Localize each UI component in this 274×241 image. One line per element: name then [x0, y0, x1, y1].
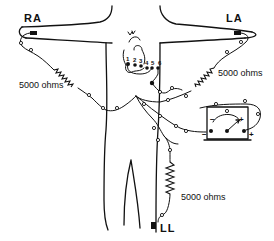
chest-label-5: 5 — [151, 60, 154, 66]
chest-electrode-2 — [133, 63, 137, 67]
galvanometer-terminal-plus: + — [249, 131, 254, 139]
ra-electrode — [30, 31, 37, 35]
galvanometer-scale-plus: + — [239, 116, 244, 124]
galvanometer-scale-minus: − — [210, 116, 215, 124]
chest-label-6: 6 — [158, 60, 161, 66]
ll-circuit — [151, 136, 174, 229]
chest-label-2: 2 — [133, 57, 136, 63]
la-electrode — [234, 31, 241, 35]
resistor-label-ll: 5000 ohms — [181, 193, 226, 202]
ll-resistor — [166, 162, 174, 194]
chest-electrode-4 — [145, 66, 149, 70]
chest-electrodes — [126, 62, 182, 94]
resistor-label-ra: 5000 ohms — [19, 81, 64, 90]
galvanometer-terminal-minus: − — [202, 131, 207, 139]
resistor-label-la: 5000 ohms — [218, 69, 263, 78]
chest-label-4: 4 — [145, 60, 148, 66]
ecg-lead-diagram — [0, 0, 274, 241]
lead-label-ll: LL — [160, 223, 175, 234]
ll-electrode — [151, 222, 156, 229]
ra-circuit — [19, 31, 136, 111]
chest-label-3: 3 — [139, 58, 142, 64]
chest-label-1: 1 — [126, 56, 129, 62]
lead-label-ra: RA — [24, 13, 42, 24]
lead-label-la: LA — [226, 13, 243, 24]
la-resistor — [195, 68, 214, 87]
chest-electrode-3 — [139, 64, 143, 68]
